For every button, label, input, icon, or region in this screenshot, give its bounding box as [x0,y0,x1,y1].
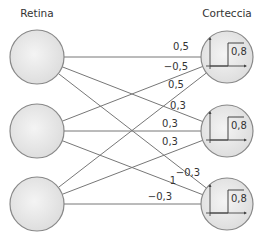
weight-label: 0,3 [170,100,186,111]
weight-label: −0,3 [148,191,172,202]
threshold-label: 0,8 [231,120,247,131]
retina-node [10,177,64,231]
retina-title: Retina [20,7,53,19]
weight-label: −0,5 [164,61,188,72]
cortex-node: 0,8 [201,105,253,157]
weight-label: 0,3 [162,118,178,129]
retina-node [10,104,64,158]
cortex-node: 0,8 [201,178,253,230]
diagram-canvas: Retina Corteccia 0,80,80,8 0,50,3−0,3−0,… [0,0,263,247]
neural-network-diagram: Retina Corteccia 0,80,80,8 0,50,3−0,3−0,… [0,0,263,247]
cortex-node: 0,8 [201,31,253,83]
threshold-label: 0,8 [231,193,247,204]
weight-labels: 0,50,3−0,3−0,50,310,50,3−0,3 [148,41,200,202]
weight-label: 1 [170,175,176,186]
connections [58,57,206,204]
weight-label: 0,3 [162,136,178,147]
weight-label: 0,5 [168,79,184,90]
cortex-title: Corteccia [202,7,252,19]
retina-node [10,30,64,84]
threshold-label: 0,8 [231,46,247,57]
weight-label: 0,5 [173,41,189,52]
weight-label: −0,3 [176,167,200,178]
